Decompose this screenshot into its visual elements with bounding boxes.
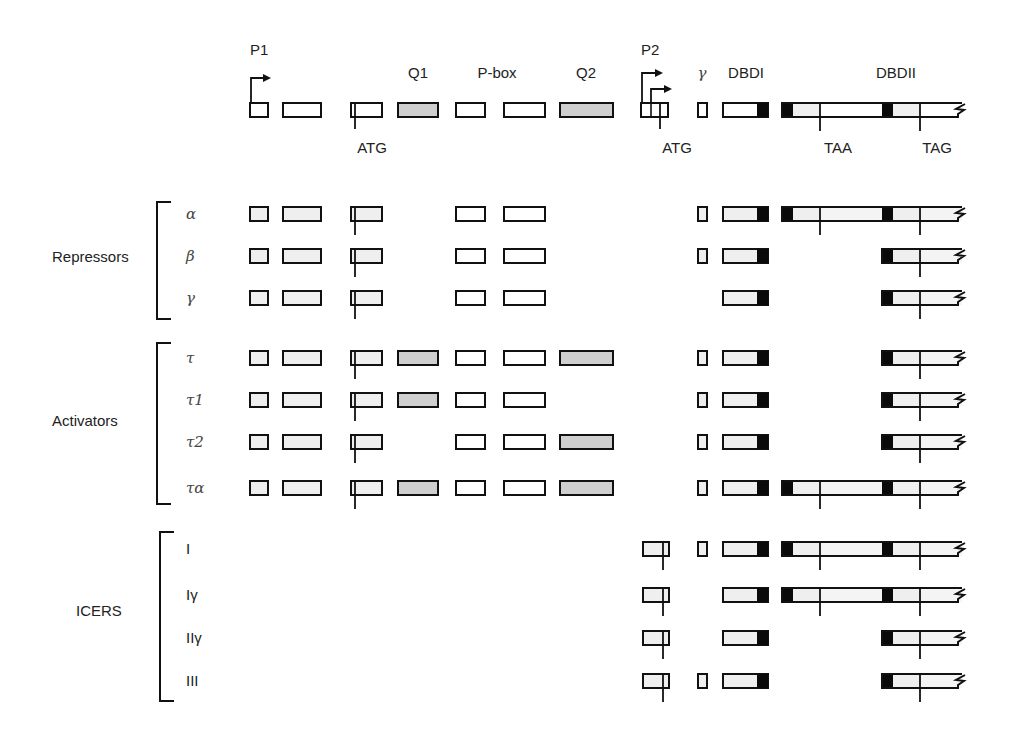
isoform-row-icer-I-gamma: Iγ xyxy=(186,586,965,616)
isoform-row-icer-I: I xyxy=(186,540,965,570)
isoform-row-alpha: α xyxy=(186,205,965,235)
exon-icer xyxy=(643,588,669,616)
exon-dbdi xyxy=(723,435,768,449)
isoform-rows: αβγττ1τ2ταIIγIIγIII xyxy=(185,103,965,702)
exon-icer xyxy=(643,631,669,659)
exon-e6 xyxy=(504,481,545,495)
isoform-label: IIγ xyxy=(186,629,202,646)
exon-g xyxy=(698,249,707,263)
exon-e3 xyxy=(351,393,382,421)
exon-q2 xyxy=(560,481,613,495)
exon-e3 xyxy=(351,207,382,235)
exon-pb xyxy=(456,103,485,117)
exon-e1 xyxy=(250,207,268,221)
exon-e3 xyxy=(351,249,382,277)
isoform-row-tau-alpha: τα xyxy=(186,479,965,509)
codon-label: ATG xyxy=(357,139,387,156)
codon-label: ATG xyxy=(662,139,692,156)
isoform-row-icer-II-gamma: IIγ xyxy=(186,629,965,659)
exon-e2 xyxy=(283,207,321,221)
domain-label: Q1 xyxy=(408,64,428,81)
exon-pb xyxy=(456,351,485,365)
isoform-label: τ1 xyxy=(186,391,204,409)
exon-e3 xyxy=(351,435,382,463)
p1-arrow-icon xyxy=(251,74,271,104)
exon-dbdii_short xyxy=(882,631,965,659)
exon-dbdii_short xyxy=(882,249,965,277)
exon-dbdi xyxy=(723,631,768,645)
exon-dbdi xyxy=(723,207,768,221)
exon-dbdii_long xyxy=(782,588,965,616)
group-label: Activators xyxy=(52,412,118,429)
exon-dbdii_short xyxy=(882,435,965,463)
p2-secondary-arrow-icon xyxy=(651,85,672,104)
promoter-label: P1 xyxy=(250,41,268,58)
exon-dbdi xyxy=(723,481,768,495)
exon-dbdi xyxy=(723,588,768,602)
exon-pb xyxy=(456,249,485,263)
exon-g xyxy=(698,393,707,407)
exon-g xyxy=(698,351,707,365)
exon-q1 xyxy=(398,103,438,117)
exon-q1 xyxy=(398,351,438,365)
exon-e2 xyxy=(283,481,321,495)
exon-g xyxy=(698,542,707,556)
group-label: ICERS xyxy=(76,602,122,619)
exon-q2 xyxy=(560,103,613,117)
exon-e1 xyxy=(250,103,268,117)
exon-e1 xyxy=(250,351,268,365)
exon-e1 xyxy=(250,291,268,305)
exon-dbdii_short xyxy=(882,674,965,702)
isoform-label: γ xyxy=(186,289,195,307)
exon-e2 xyxy=(283,103,321,117)
exon-e6 xyxy=(504,207,545,221)
header-labels: P1P2Q1P-boxQ2γDBDIDBDIIATGATGTAATAG xyxy=(250,41,952,156)
exon-e1 xyxy=(250,481,268,495)
isoform-label: τα xyxy=(186,479,204,497)
exon-e6 xyxy=(504,351,545,365)
exon-e2 xyxy=(283,249,321,263)
bracket xyxy=(157,343,171,504)
domain-label: DBDII xyxy=(876,64,916,81)
exon-pb xyxy=(456,393,485,407)
exon-dbdi xyxy=(723,249,768,263)
exon-e2 xyxy=(283,393,321,407)
exon-dbdi xyxy=(723,542,768,556)
exon-pb xyxy=(456,207,485,221)
promoter-arrows xyxy=(251,69,672,104)
domain-label: γ xyxy=(698,64,707,82)
isoform-label: τ2 xyxy=(186,433,204,451)
exon-q1 xyxy=(398,393,438,407)
exon-e2 xyxy=(283,435,321,449)
bracket xyxy=(160,532,174,701)
exon-icer xyxy=(643,674,669,702)
isoform-row-icer-III: III xyxy=(186,672,965,702)
exon-dbdii_short xyxy=(882,351,965,379)
exon-e3 xyxy=(351,291,382,319)
exon-dbdii_long xyxy=(782,542,965,570)
exon-dbdii_long xyxy=(782,481,965,509)
codon-label: TAA xyxy=(824,139,852,156)
group-label: Repressors xyxy=(52,248,129,265)
exon-e2 xyxy=(283,291,321,305)
exon-g xyxy=(698,103,707,117)
isoform-label: β xyxy=(185,247,195,265)
isoform-row-tau2: τ2 xyxy=(186,433,965,463)
exon-p2 xyxy=(641,103,668,129)
exon-e3 xyxy=(351,103,382,129)
isoform-label: III xyxy=(186,672,199,689)
exon-dbdi xyxy=(723,674,768,688)
exon-g xyxy=(698,435,707,449)
isoform-row-tau: τ xyxy=(186,349,965,379)
exon-icer xyxy=(643,542,669,570)
promoter-label: P2 xyxy=(641,41,659,58)
exon-g xyxy=(698,481,707,495)
isoform-label: τ xyxy=(186,349,195,367)
isoform-row-gamma: γ xyxy=(186,289,965,319)
exon-e2 xyxy=(283,351,321,365)
exon-e6 xyxy=(504,249,545,263)
isoform-row-beta: β xyxy=(185,247,965,277)
exon-e6 xyxy=(504,103,545,117)
exon-dbdii_short xyxy=(882,393,965,421)
exon-e3 xyxy=(351,351,382,379)
